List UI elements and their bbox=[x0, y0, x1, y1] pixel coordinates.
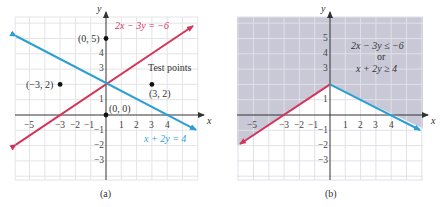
test-point-label: (−3, 2) bbox=[26, 79, 53, 91]
x-tick: −1 bbox=[308, 120, 318, 130]
caption-a: (a) bbox=[100, 188, 111, 200]
panel-a: x y −5 −3 −2 −1 1 2 3 4 4 3 1 −1 −2 −3 2… bbox=[15, 3, 212, 200]
x-tick: −5 bbox=[247, 120, 257, 130]
y-tick: 4 bbox=[323, 48, 328, 58]
x-tick: −1 bbox=[84, 120, 94, 130]
test-points-annotation: Test points bbox=[148, 62, 192, 73]
y-tick: −2 bbox=[94, 140, 104, 150]
red-equation-label-a: 2x − 3y = −6 bbox=[115, 20, 169, 31]
x-tick: 2 bbox=[134, 120, 139, 130]
y-tick: 3 bbox=[323, 63, 328, 73]
blue-equation-label-a: x + 2y = 4 bbox=[143, 133, 186, 144]
y-tick: −2 bbox=[318, 140, 328, 150]
x-tick: −2 bbox=[70, 120, 80, 130]
figure: x y −5 −3 −2 −1 1 2 3 4 4 3 1 −1 −2 −3 2… bbox=[0, 0, 443, 207]
x-tick: 1 bbox=[343, 120, 348, 130]
y-tick: −3 bbox=[318, 155, 328, 165]
x-tick: −3 bbox=[55, 120, 65, 130]
test-point-0-5 bbox=[104, 36, 109, 41]
x-tick: −2 bbox=[294, 120, 304, 130]
y-tick: 1 bbox=[99, 94, 104, 104]
x-tick: 2 bbox=[358, 120, 363, 130]
x-axis-label-b: x bbox=[430, 115, 436, 126]
x-tick: −5 bbox=[24, 120, 34, 130]
test-point-0-0 bbox=[104, 113, 109, 118]
x-tick: 3 bbox=[373, 120, 378, 130]
y-tick: −3 bbox=[94, 155, 104, 165]
y-tick: −1 bbox=[318, 125, 328, 135]
inequality-2: x + 2y ≥ 4 bbox=[355, 63, 397, 74]
x-axis-label-a: x bbox=[206, 115, 212, 126]
x-tick: 1 bbox=[119, 120, 124, 130]
test-point-3-2 bbox=[150, 82, 155, 87]
y-axis-label-a: y bbox=[96, 3, 102, 14]
y-tick: 3 bbox=[99, 63, 104, 73]
x-tick: 4 bbox=[165, 120, 170, 130]
test-point-label: (0, 0) bbox=[109, 103, 131, 115]
caption-b: (b) bbox=[325, 188, 337, 200]
x-tick: 3 bbox=[149, 120, 154, 130]
inequality-or: or bbox=[377, 51, 386, 62]
test-point-m3-2 bbox=[58, 82, 63, 87]
y-tick: −1 bbox=[94, 125, 104, 135]
y-tick: 1 bbox=[323, 94, 328, 104]
y-axis-label-b: y bbox=[320, 3, 326, 14]
inequality-1: 2x − 3y ≤ −6 bbox=[351, 40, 404, 51]
panel-b: x y −5 −3 −2 −1 1 2 3 4 5 4 3 1 −1 −2 −3… bbox=[237, 3, 436, 200]
x-tick: 4 bbox=[389, 120, 394, 130]
y-tick: 5 bbox=[323, 33, 328, 43]
test-point-label: (3, 2) bbox=[149, 88, 171, 100]
y-tick: 4 bbox=[99, 48, 104, 58]
test-point-label: (0, 5) bbox=[78, 33, 100, 45]
x-tick: −3 bbox=[279, 120, 289, 130]
